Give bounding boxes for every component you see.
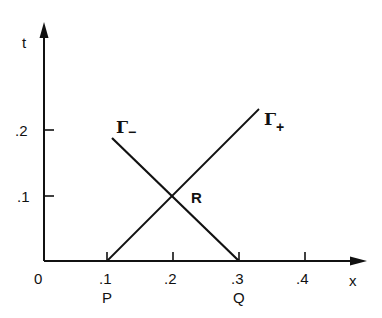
x-tick-label-2: .2 [164, 270, 177, 287]
gamma-minus-subscript: − [128, 124, 136, 140]
t-axis-label: t [22, 34, 27, 51]
point-label-r: R [191, 189, 202, 206]
gamma-plus-symbol: Γ [264, 109, 276, 129]
point-label-p: P [102, 289, 112, 306]
t-axis-arrowhead [40, 22, 49, 38]
gamma-plus-subscript: + [276, 119, 284, 135]
point-label-q: Q [233, 289, 245, 306]
x-tick-label-3: .3 [231, 270, 244, 287]
gamma-minus-symbol: Γ [116, 117, 128, 137]
x-axis-label: x [349, 272, 357, 289]
t-tick-label-1: .1 [17, 188, 30, 205]
x-axis-arrowhead [350, 257, 367, 266]
t-tick-label-2: .2 [15, 122, 28, 139]
x-tick-label-4: .4 [296, 270, 309, 287]
gamma-minus-line [112, 138, 239, 261]
characteristics-diagram: t x 0 .1 .2 .3 .4 .1 .2 P Q R Γ − Γ + [0, 0, 382, 318]
origin-label: 0 [34, 270, 42, 287]
x-tick-label-1: .1 [99, 270, 112, 287]
